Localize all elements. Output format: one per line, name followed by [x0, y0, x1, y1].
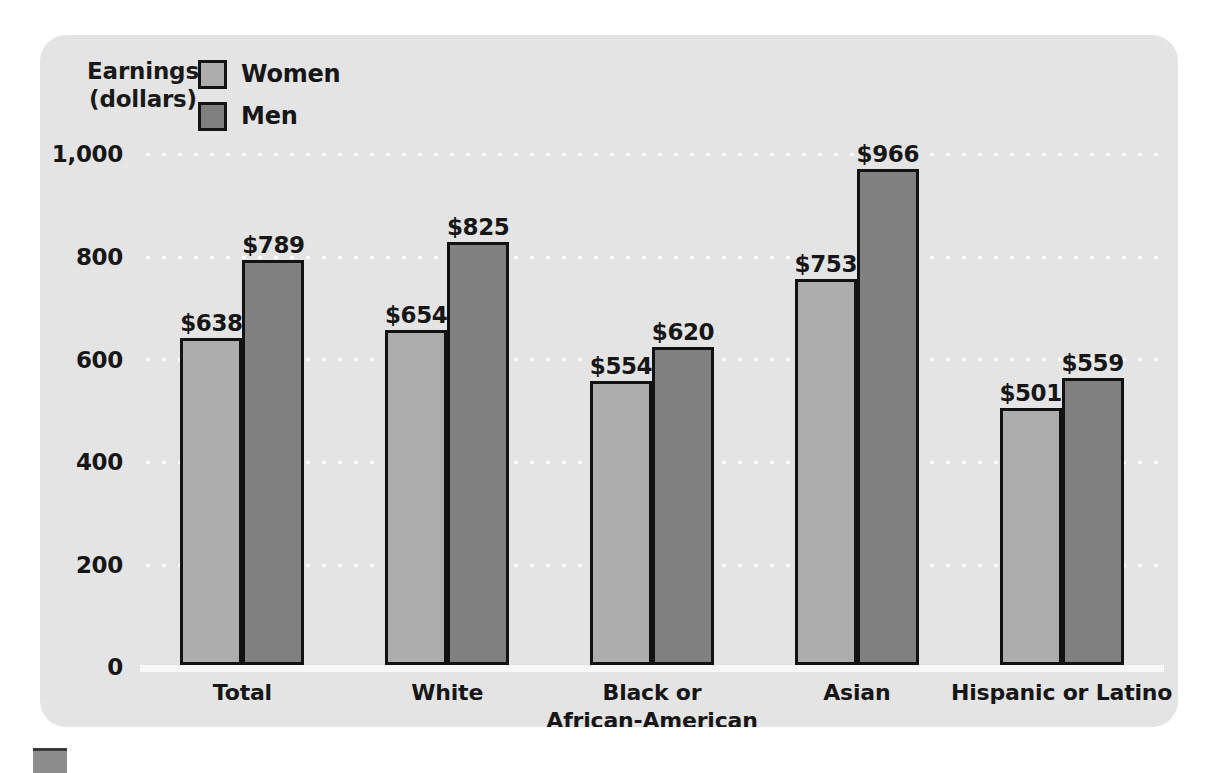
bar-value-label: $554	[590, 353, 652, 379]
bar-group: $638$789Total	[180, 152, 304, 665]
bar-group: $654$825White	[385, 152, 509, 665]
y-tick-label-800: 800	[40, 244, 123, 270]
bar-value-label: $654	[385, 302, 447, 328]
chart-panel: Earnings (dollars) Women Men 1,000 800 6…	[40, 35, 1178, 727]
bar-men-2[interactable]: $620	[652, 347, 714, 665]
bar-men-4[interactable]: $559	[1062, 378, 1124, 665]
bar-value-label: $966	[857, 141, 919, 167]
bar-group: $753$966Asian	[795, 152, 919, 665]
bar-value-label: $501	[999, 380, 1061, 406]
bar-value-label: $620	[652, 319, 714, 345]
x-axis-category-label: Black orAfrican-American	[546, 679, 757, 727]
bar-group: $554$620Black orAfrican-American	[590, 152, 714, 665]
bar-women-2[interactable]: $554	[590, 381, 652, 665]
x-axis-category-label: Hispanic or Latino	[951, 679, 1172, 707]
bar-value-label: $638	[180, 310, 242, 336]
bar-women-3[interactable]: $753	[795, 279, 857, 665]
y-tick-label-200: 200	[40, 552, 123, 578]
x-axis-category-label: Asian	[823, 679, 890, 707]
bar-groups-container: $638$789Total$654$825White$554$620Black …	[140, 35, 1164, 727]
bar-men-0[interactable]: $789	[242, 260, 304, 665]
bar-value-label: $559	[1061, 350, 1123, 376]
bar-value-label: $753	[795, 251, 857, 277]
y-tick-label-600: 600	[40, 347, 123, 373]
bar-women-4[interactable]: $501	[1000, 408, 1062, 665]
bar-men-3[interactable]: $966	[857, 169, 919, 665]
plot-area: 1,000 800 600 400 200 0 $638$789Total$65…	[40, 35, 1178, 727]
x-axis-category-label: Total	[213, 679, 272, 707]
y-tick-label-400: 400	[40, 449, 123, 475]
figure-bullet-marker	[33, 748, 67, 773]
y-tick-label-1000: 1,000	[40, 141, 123, 167]
bar-group: $501$559Hispanic or Latino	[1000, 152, 1124, 665]
bar-value-label: $825	[447, 214, 509, 240]
bar-women-0[interactable]: $638	[180, 338, 242, 665]
bar-women-1[interactable]: $654	[385, 330, 447, 666]
bar-men-1[interactable]: $825	[447, 242, 509, 665]
x-axis-category-label: White	[411, 679, 483, 707]
bar-value-label: $789	[242, 232, 304, 258]
y-tick-label-0: 0	[40, 654, 123, 680]
